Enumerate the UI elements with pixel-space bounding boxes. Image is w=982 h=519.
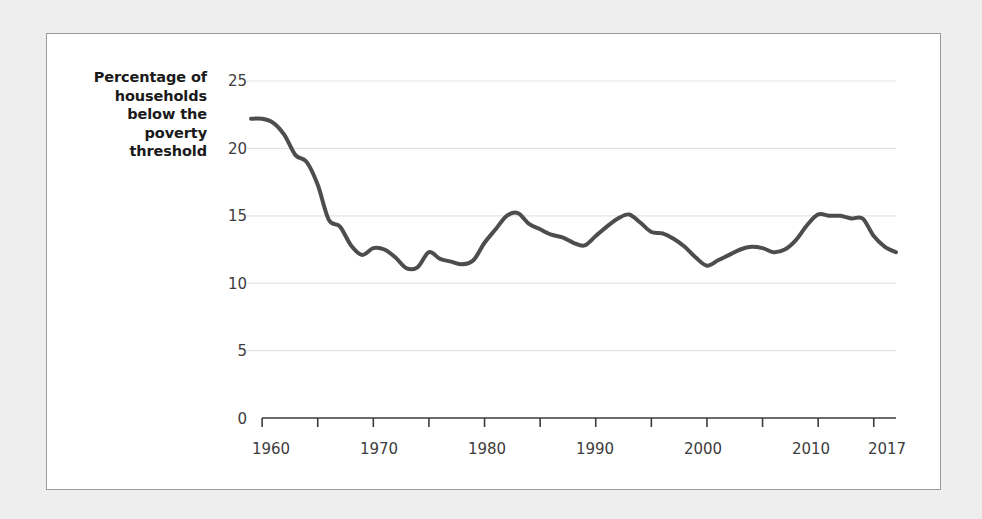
chart-plot-region: Percentage of households below the pover… bbox=[47, 34, 942, 491]
x-axis-group bbox=[262, 418, 896, 427]
chart-card: Percentage of households below the pover… bbox=[46, 33, 941, 490]
chart-svg bbox=[47, 34, 942, 491]
series-line-poverty-rate bbox=[251, 118, 896, 269]
gridlines-group bbox=[246, 81, 896, 351]
